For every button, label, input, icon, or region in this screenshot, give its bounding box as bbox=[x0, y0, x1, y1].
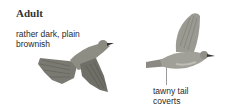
annotation-leader-line bbox=[166, 67, 167, 85]
annotation-line: tawny tail bbox=[153, 86, 188, 96]
annotation-line: coverts bbox=[153, 96, 188, 106]
annotation-tail-coverts: tawny tail coverts bbox=[153, 86, 188, 106]
bird-illustration-right bbox=[0, 0, 234, 109]
